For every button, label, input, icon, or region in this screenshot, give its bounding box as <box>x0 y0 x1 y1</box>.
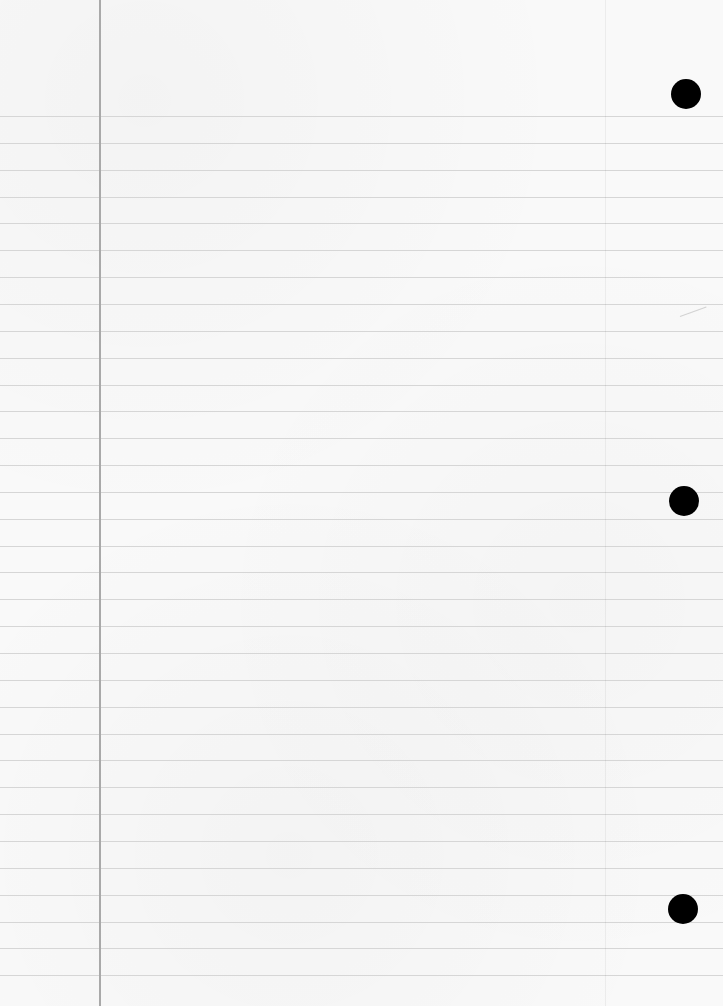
rule-line <box>0 707 723 708</box>
rule-line <box>0 411 723 412</box>
rule-line <box>0 572 723 573</box>
rule-line <box>0 277 723 278</box>
rule-line <box>0 170 723 171</box>
rule-lines <box>0 0 723 1006</box>
rule-line <box>0 143 723 144</box>
rule-line <box>0 438 723 439</box>
rule-line <box>0 653 723 654</box>
rule-line <box>0 519 723 520</box>
rule-line <box>0 331 723 332</box>
rule-line <box>0 814 723 815</box>
rule-line <box>0 599 723 600</box>
rule-line <box>0 250 723 251</box>
margin-line <box>99 0 101 1006</box>
notebook-paper <box>0 0 723 1006</box>
binder-hole <box>669 486 699 516</box>
rule-line <box>0 680 723 681</box>
rule-line <box>0 116 723 117</box>
rule-line <box>0 948 723 949</box>
rule-line <box>0 841 723 842</box>
rule-line <box>0 787 723 788</box>
rule-line <box>0 868 723 869</box>
rule-line <box>0 465 723 466</box>
rule-line <box>0 626 723 627</box>
faint-vertical-line <box>605 0 606 1006</box>
rule-line <box>0 546 723 547</box>
rule-line <box>0 304 723 305</box>
rule-line <box>0 975 723 976</box>
rule-line <box>0 734 723 735</box>
rule-line <box>0 895 723 896</box>
rule-line <box>0 223 723 224</box>
binder-hole <box>668 894 698 924</box>
rule-line <box>0 922 723 923</box>
binder-hole <box>671 79 701 109</box>
rule-line <box>0 760 723 761</box>
rule-line <box>0 385 723 386</box>
rule-line <box>0 492 723 493</box>
rule-line <box>0 197 723 198</box>
rule-line <box>0 358 723 359</box>
